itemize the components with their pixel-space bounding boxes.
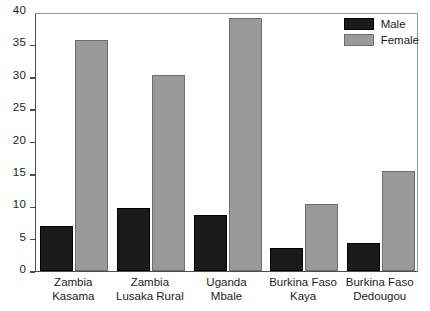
bar-male-uganda-mbale — [194, 215, 227, 271]
y-axis-tick-label: 40 — [13, 5, 26, 17]
legend-swatch-female — [344, 34, 374, 46]
legend-item-male: Male — [344, 18, 419, 30]
x-axis-label-burkina-faso-dedougou: Burkina FasoDedougou — [341, 276, 418, 303]
x-axis-label-burkina-faso-kaya: Burkina FasoKaya — [265, 276, 342, 303]
y-axis-tick-label: 20 — [13, 135, 26, 147]
legend-item-female: Female — [344, 34, 419, 46]
chart-legend: MaleFemale — [344, 18, 419, 46]
legend-label-female: Female — [381, 34, 419, 46]
x-axis-label-line2: Mbale — [188, 290, 265, 304]
bar-male-burkina-faso-kaya — [270, 248, 303, 271]
x-axis-label-uganda-mbale: UgandaMbale — [188, 276, 265, 303]
plot-area — [35, 13, 418, 272]
x-axis-label-line2: Kaya — [265, 290, 342, 304]
x-axis-label-zambia-lusaka-rural: ZambiaLusaka Rural — [112, 276, 189, 303]
x-axis-label-line2: Kasama — [35, 290, 112, 304]
y-axis-tick-label: 0 — [19, 264, 26, 276]
y-axis-tick-label: 5 — [19, 232, 26, 244]
bar-male-zambia-lusaka-rural — [117, 208, 150, 271]
bar-chart: 0510152025303540 ZambiaKasamaZambiaLusak… — [0, 0, 430, 311]
y-axis-tick-label: 30 — [13, 70, 26, 82]
x-axis-label-line1: Burkina Faso — [346, 276, 414, 288]
x-axis-label-line1: Uganda — [206, 276, 246, 288]
bar-female-uganda-mbale — [229, 18, 262, 271]
y-axis-tick-label: 10 — [13, 199, 26, 211]
x-axis-label-line1: Zambia — [131, 276, 169, 288]
bar-female-burkina-faso-kaya — [305, 204, 338, 271]
y-axis-tick-label: 35 — [13, 37, 26, 49]
y-axis-tick-label: 25 — [13, 102, 26, 114]
x-axis-label-line2: Dedougou — [341, 290, 418, 304]
legend-label-male: Male — [381, 18, 406, 30]
x-axis-label-line1: Zambia — [54, 276, 92, 288]
bar-female-zambia-lusaka-rural — [152, 75, 185, 271]
bar-male-zambia-kasama — [40, 226, 73, 271]
x-axis-label-zambia-kasama: ZambiaKasama — [35, 276, 112, 303]
y-axis-tick-label: 15 — [13, 167, 26, 179]
bar-female-zambia-kasama — [75, 40, 108, 271]
legend-swatch-male — [344, 18, 374, 30]
x-axis-label-line1: Burkina Faso — [269, 276, 337, 288]
bar-male-burkina-faso-dedougou — [347, 243, 380, 271]
x-axis-label-line2: Lusaka Rural — [112, 290, 189, 304]
y-axis: 0510152025303540 — [0, 0, 35, 311]
bar-female-burkina-faso-dedougou — [382, 171, 415, 271]
